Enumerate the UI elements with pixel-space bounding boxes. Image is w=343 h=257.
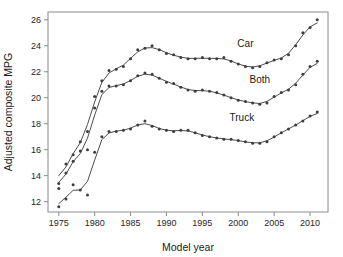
plot-box: [48, 12, 328, 212]
data-point: [244, 140, 247, 143]
x-tick-label: 1990: [156, 218, 176, 228]
data-point: [251, 142, 254, 145]
data-point: [115, 130, 118, 133]
data-point: [79, 188, 82, 191]
data-point: [294, 123, 297, 126]
data-point: [136, 48, 139, 51]
data-point: [72, 183, 75, 186]
data-point: [115, 68, 118, 71]
data-point: [179, 56, 182, 59]
data-point: [287, 88, 290, 91]
data-point: [287, 53, 290, 56]
data-point: [57, 205, 60, 208]
data-point: [158, 48, 161, 51]
data-point: [287, 127, 290, 130]
data-point: [222, 138, 225, 141]
data-point: [265, 101, 268, 104]
data-point: [222, 94, 225, 97]
data-point: [208, 90, 211, 93]
series-car: [57, 18, 318, 185]
series-line-truck: [59, 114, 317, 204]
data-point: [309, 114, 312, 117]
data-point: [301, 73, 304, 76]
data-point: [93, 151, 96, 154]
data-point: [79, 140, 82, 143]
data-point: [79, 149, 82, 152]
x-tick-label: 2010: [300, 218, 320, 228]
y-axis-tick-labels: 1214161820222426: [31, 15, 41, 207]
data-point: [151, 44, 154, 47]
series-both: [57, 60, 318, 190]
y-tick-label: 22: [31, 67, 41, 77]
series-line-both: [59, 63, 317, 182]
data-point: [172, 82, 175, 85]
data-point: [273, 95, 276, 98]
data-point: [57, 187, 60, 190]
data-point: [64, 172, 67, 175]
data-point: [129, 127, 132, 130]
x-tick-label: 1980: [85, 218, 105, 228]
data-point: [237, 99, 240, 102]
data-point: [108, 85, 111, 88]
data-point: [230, 138, 233, 141]
data-point: [158, 77, 161, 80]
data-point: [201, 88, 204, 91]
data-point: [129, 57, 132, 60]
data-point: [251, 101, 254, 104]
y-axis-title: Adjusted composite MPG: [2, 53, 14, 171]
data-point: [122, 129, 125, 132]
data-point: [215, 57, 218, 60]
data-point: [222, 56, 225, 59]
data-point: [100, 135, 103, 138]
data-point: [86, 194, 89, 197]
data-point: [122, 65, 125, 68]
y-tick-label: 26: [31, 15, 41, 25]
data-point: [316, 60, 319, 63]
data-point: [273, 135, 276, 138]
chart-figure: 19751980198519901995200020052010 1214161…: [0, 0, 343, 257]
data-point: [151, 125, 154, 128]
data-point: [72, 153, 75, 156]
data-point: [165, 81, 168, 84]
data-point: [237, 62, 240, 65]
data-point: [86, 148, 89, 151]
data-point: [143, 47, 146, 50]
data-point: [172, 130, 175, 133]
data-point: [301, 120, 304, 123]
data-point: [309, 26, 312, 29]
series-annotations: CarBothTruck: [230, 38, 271, 123]
data-point: [244, 100, 247, 103]
x-tick-label: 1995: [192, 218, 212, 228]
series-label-truck: Truck: [230, 112, 256, 123]
data-point: [136, 123, 139, 126]
y-tick-label: 18: [31, 119, 41, 129]
data-point: [187, 57, 190, 60]
y-tick-label: 24: [31, 41, 41, 51]
data-point: [244, 65, 247, 68]
data-point: [280, 131, 283, 134]
data-point: [172, 53, 175, 56]
data-point: [187, 129, 190, 132]
x-tick-label: 1985: [121, 218, 141, 228]
data-point: [316, 111, 319, 114]
y-axis-ticks: [44, 20, 48, 202]
data-point: [273, 59, 276, 62]
data-point: [158, 127, 161, 130]
data-point: [215, 136, 218, 139]
data-point: [215, 91, 218, 94]
data-point: [129, 79, 132, 82]
data-point: [294, 83, 297, 86]
data-point: [280, 91, 283, 94]
data-point: [187, 88, 190, 91]
data-point: [194, 131, 197, 134]
data-point: [179, 86, 182, 89]
data-point: [72, 160, 75, 163]
data-point: [64, 162, 67, 165]
y-tick-label: 12: [31, 197, 41, 207]
plot-frame: [48, 12, 328, 212]
data-point: [100, 79, 103, 82]
data-point: [208, 135, 211, 138]
data-point: [230, 60, 233, 63]
data-point: [143, 120, 146, 123]
data-point: [179, 129, 182, 132]
